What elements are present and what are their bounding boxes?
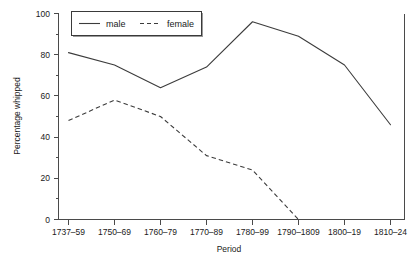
chart-legend: male female [72, 12, 204, 38]
x-tick-label-3: 1770–89 [190, 227, 223, 237]
y-tick-label-60: 60 [41, 91, 51, 101]
data-series-group [69, 22, 391, 220]
series-line-male [69, 22, 391, 125]
x-tick-label-4: 1780–99 [236, 227, 269, 237]
x-axis-title: Period [217, 244, 242, 254]
x-tick-label-6: 1800–19 [328, 227, 361, 237]
y-tick-label-80: 80 [41, 50, 51, 60]
x-tick-label-2: 1760–79 [144, 227, 177, 237]
legend-label-male: male [106, 19, 126, 29]
series-line-female [69, 100, 299, 219]
y-axis-ticks: 100 80 60 40 20 0 [36, 9, 59, 225]
x-tick-label-1: 1750–69 [98, 227, 131, 237]
line-chart: 100 80 60 40 20 0 Percentage whipped 173… [0, 0, 416, 262]
axis-frame [59, 14, 405, 220]
x-tick-label-5: 1790–1809 [277, 227, 320, 237]
chart-container: 100 80 60 40 20 0 Percentage whipped 173… [0, 0, 416, 262]
legend-label-female: female [167, 19, 194, 29]
y-tick-label-40: 40 [41, 132, 51, 142]
x-tick-label-0: 1737–59 [52, 227, 85, 237]
y-axis-title: Percentage whipped [12, 77, 22, 155]
x-tick-label-7: 1810–24 [374, 227, 407, 237]
plot-axes [59, 14, 405, 220]
y-tick-label-0: 0 [45, 215, 50, 225]
y-tick-label-20: 20 [41, 173, 51, 183]
y-tick-label-100: 100 [36, 9, 50, 19]
x-axis-ticks: 1737–59 1750–69 1760–79 1770–89 1780–99 … [52, 220, 407, 238]
